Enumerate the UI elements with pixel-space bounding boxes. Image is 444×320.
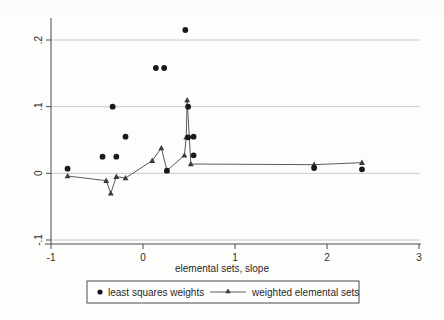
weighted-elemental-sets-markers (65, 97, 365, 196)
triangle-marker-8 (181, 152, 187, 157)
dot-marker-7 (164, 168, 170, 174)
x-tick-label-0: -1 (47, 252, 56, 263)
dot-marker-10 (185, 134, 191, 140)
y-tick-label-0: -.1 (33, 234, 44, 246)
y-tick-label-2: .1 (33, 102, 44, 111)
chart-legend: least squares weights weighted elemental… (87, 281, 359, 303)
x-axis-title: elemental sets, slope (175, 263, 269, 274)
dot-marker-1 (100, 154, 106, 160)
x-tick-label-4: 3 (416, 252, 422, 263)
dot-marker-5 (153, 65, 159, 71)
series-polyline (68, 100, 362, 193)
legend-circle-marker-icon (97, 289, 102, 294)
dot-marker-0 (65, 166, 71, 172)
chart-figure: -.10.1.2-10123 elemental sets, slope lea… (0, 0, 444, 320)
tick-group (46, 40, 419, 249)
dot-marker-4 (123, 134, 129, 140)
triangle-marker-2 (108, 190, 114, 195)
dot-marker-12 (191, 152, 197, 158)
dot-marker-3 (113, 154, 119, 160)
x-tick-label-1: 0 (140, 252, 146, 263)
triangle-marker-6 (158, 145, 164, 150)
y-tick-label-3: .2 (33, 35, 44, 44)
legend-label-weighted-elemental-sets: weighted elemental sets (251, 287, 359, 298)
x-tick-label-2: 1 (232, 252, 238, 263)
dot-marker-6 (161, 65, 167, 71)
triangle-marker-10 (184, 97, 190, 102)
gridline-group (51, 40, 420, 240)
y-tick-label-1: 0 (33, 170, 44, 176)
dot-marker-2 (110, 104, 116, 110)
x-tick-label-3: 2 (324, 252, 330, 263)
least-squares-weights-markers (65, 27, 365, 173)
triangle-marker-13 (359, 160, 365, 165)
dot-marker-13 (311, 165, 317, 171)
weighted-elemental-sets-line (68, 100, 362, 193)
triangle-marker-3 (113, 174, 119, 179)
tick-label-group: -.10.1.2-10123 (33, 35, 423, 263)
dot-marker-11 (191, 134, 197, 140)
dot-marker-9 (185, 104, 191, 110)
scatter-plot-svg: -.10.1.2-10123 elemental sets, slope lea… (0, 0, 444, 320)
legend-label-least-squares-weights: least squares weights (108, 287, 204, 298)
dot-marker-8 (182, 27, 188, 33)
axis-group (45, 18, 421, 244)
dot-marker-14 (359, 166, 365, 172)
